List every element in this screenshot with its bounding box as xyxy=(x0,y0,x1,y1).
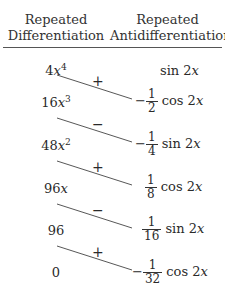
diff-row-3: 96x xyxy=(0,181,112,196)
diff-row-0: 4x4 xyxy=(0,63,112,78)
sign-4: − xyxy=(92,202,104,218)
antidiff-row-3: 18 cos 2x xyxy=(145,174,202,201)
antidiff-row-5: −132 cos 2x xyxy=(132,259,208,286)
diff-row-4: 96 xyxy=(0,223,112,238)
sign-2: − xyxy=(92,116,104,132)
antidiff-row-1: −12 cos 2x xyxy=(135,88,203,115)
diff-row-1: 16x3 xyxy=(0,95,112,110)
diff-row-5: 0 xyxy=(0,265,112,280)
sign-3: + xyxy=(92,159,104,175)
antidiff-row-0: sin 2x xyxy=(160,63,199,78)
diff-row-2: 48x2 xyxy=(0,138,112,153)
antidiff-row-2: −14 sin 2x xyxy=(135,131,201,158)
sign-5: + xyxy=(92,244,104,260)
antidiff-row-4: 116 sin 2x xyxy=(142,216,204,243)
